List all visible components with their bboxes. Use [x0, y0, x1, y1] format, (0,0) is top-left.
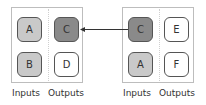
- arrow-icon: [0, 0, 206, 105]
